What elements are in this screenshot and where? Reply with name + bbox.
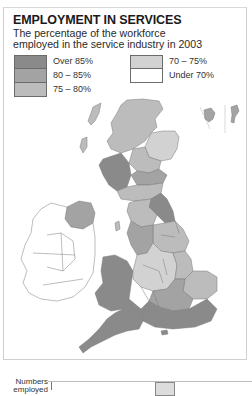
numbers-employed-label: Numbers employed [8,378,48,393]
map-title: EMPLOYMENT IN SERVICES [13,13,181,27]
bottom-axis-line [48,381,252,382]
legend-label: 70 – 75% [169,56,207,66]
legend-swatch [130,55,163,69]
shetland [231,105,239,123]
legend-label: Over 85% [53,56,93,66]
bottom-bar [155,382,175,396]
western-isles [88,103,101,125]
legend-label: Under 70% [169,70,214,80]
strathclyde [99,153,131,191]
numbers-label-line2: employed [8,386,48,394]
legend-label: 75 – 80% [53,84,91,94]
grampian [145,131,179,161]
map-subtitle: The percentage of the workforce employed… [13,28,213,50]
skye [80,137,87,153]
isle-of-wight [161,330,168,335]
legend-swatch [14,69,47,83]
isle-of-man [115,221,120,231]
legend-label: 80 – 85% [53,70,91,80]
uk-ireland-map [3,95,249,360]
legend-swatch [130,69,163,83]
legend-swatch [14,55,47,69]
bracket-tick [48,381,52,390]
